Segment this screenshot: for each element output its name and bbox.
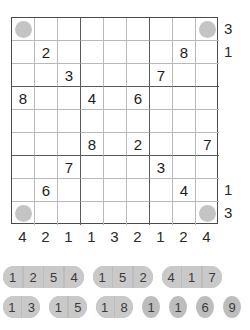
grid-cell-r8c9[interactable] xyxy=(196,179,219,202)
grid-cell-r5c7[interactable] xyxy=(150,110,173,133)
grid-cell-r9c5[interactable] xyxy=(104,202,127,225)
grid-cell-r7c3[interactable]: 7 xyxy=(58,156,81,179)
grid-cell-r3c9[interactable] xyxy=(196,64,219,87)
pill-r2-5[interactable]: 1 xyxy=(169,296,187,318)
clues-bottom-row: 421132124 xyxy=(11,229,218,244)
grid-cell-r8c4[interactable] xyxy=(81,179,104,202)
grid-cell-r3c4[interactable] xyxy=(81,64,104,87)
grid-cell-r9c7[interactable] xyxy=(150,202,173,225)
pill-digit: 2 xyxy=(134,266,153,288)
grid-cell-r3c5[interactable] xyxy=(104,64,127,87)
pill-r2-7[interactable]: 9 xyxy=(223,296,241,318)
grid-cell-r3c7[interactable]: 7 xyxy=(150,64,173,87)
grid-cell-r8c6[interactable] xyxy=(127,179,150,202)
grid-cell-r8c3[interactable] xyxy=(58,179,81,202)
grid-cell-r3c2[interactable] xyxy=(35,64,58,87)
grid-cell-r1c9[interactable] xyxy=(196,18,219,41)
grid-cell-r6c3[interactable] xyxy=(58,133,81,156)
grid-cell-r9c2[interactable] xyxy=(35,202,58,225)
grid-cell-r2c7[interactable] xyxy=(150,41,173,64)
pill-digit: 6 xyxy=(196,296,214,318)
pill-digit: 4 xyxy=(65,266,84,288)
grid-cell-r1c1[interactable] xyxy=(12,18,35,41)
grid-cell-r9c9[interactable] xyxy=(196,202,219,225)
grid-cell-r2c1[interactable] xyxy=(12,41,35,64)
pill-r2-3[interactable]: 18 xyxy=(96,296,133,318)
grid-cell-r4c5[interactable] xyxy=(104,87,127,110)
grid-cell-r7c9[interactable] xyxy=(196,156,219,179)
grid-cell-r4c4[interactable]: 4 xyxy=(81,87,104,110)
grid-cell-r2c5[interactable] xyxy=(104,41,127,64)
pill-r1-2[interactable]: 152 xyxy=(93,266,153,288)
grid-cell-r4c2[interactable] xyxy=(35,87,58,110)
grid-cell-r5c3[interactable] xyxy=(58,110,81,133)
grid-cell-r6c4[interactable]: 8 xyxy=(81,133,104,156)
grid-cell-r6c8[interactable] xyxy=(173,133,196,156)
grid-cell-r2c8[interactable]: 8 xyxy=(173,41,196,64)
grid-cell-r1c3[interactable] xyxy=(58,18,81,41)
grid-cell-r3c6[interactable] xyxy=(127,64,150,87)
pill-r2-1[interactable]: 13 xyxy=(3,296,40,318)
grid-cell-r5c6[interactable] xyxy=(127,110,150,133)
grid-cell-r7c4[interactable] xyxy=(81,156,104,179)
grid-cell-r1c4[interactable] xyxy=(81,18,104,41)
grid-cell-r3c8[interactable] xyxy=(173,64,196,87)
grid-cell-r1c6[interactable] xyxy=(127,18,150,41)
grid-cell-r9c4[interactable] xyxy=(81,202,104,225)
grid-cell-r6c2[interactable] xyxy=(35,133,58,156)
grid-cell-r9c8[interactable] xyxy=(173,202,196,225)
pill-row-1: 1254152417 xyxy=(0,262,250,292)
grid-cell-r9c1[interactable] xyxy=(12,202,35,225)
pill-r2-4[interactable]: 1 xyxy=(142,296,160,318)
grid-cell-r6c1[interactable] xyxy=(12,133,35,156)
grid-cell-r7c6[interactable] xyxy=(127,156,150,179)
grid-cell-r3c3[interactable]: 3 xyxy=(58,64,81,87)
grid-cell-r9c6[interactable] xyxy=(127,202,150,225)
grid-cell-r7c2[interactable] xyxy=(35,156,58,179)
grid-cell-r7c7[interactable]: 3 xyxy=(150,156,173,179)
grid-cell-r4c3[interactable] xyxy=(58,87,81,110)
grid-cell-r7c8[interactable] xyxy=(173,156,196,179)
grid-cell-r4c1[interactable]: 8 xyxy=(12,87,35,110)
grid-cell-r6c5[interactable] xyxy=(104,133,127,156)
grid-cell-r1c7[interactable] xyxy=(150,18,173,41)
grid-cell-r4c7[interactable] xyxy=(150,87,173,110)
grid-cell-r5c5[interactable] xyxy=(104,110,127,133)
grid-cell-r2c3[interactable] xyxy=(58,41,81,64)
grid-cell-r5c2[interactable] xyxy=(35,110,58,133)
clue-right-bottom-1: 1 xyxy=(224,182,244,197)
grid-cell-r1c8[interactable] xyxy=(173,18,196,41)
grid-cell-r2c6[interactable] xyxy=(127,41,150,64)
grid-cell-r6c9[interactable]: 7 xyxy=(196,133,219,156)
grid-cell-r6c6[interactable]: 2 xyxy=(127,133,150,156)
grid-cell-r8c8[interactable]: 4 xyxy=(173,179,196,202)
grid-cell-r6c7[interactable] xyxy=(150,133,173,156)
pill-digit: 1 xyxy=(182,266,201,288)
pill-r2-2[interactable]: 15 xyxy=(49,296,86,318)
grid-cell-r4c6[interactable]: 6 xyxy=(127,87,150,110)
grid-cell-r7c5[interactable] xyxy=(104,156,127,179)
grid-cell-r2c2[interactable]: 2 xyxy=(35,41,58,64)
grid-cell-r4c9[interactable] xyxy=(196,87,219,110)
grid-cell-r9c3[interactable] xyxy=(58,202,81,225)
grid-cell-r8c5[interactable] xyxy=(104,179,127,202)
grid-cell-r5c1[interactable] xyxy=(12,110,35,133)
grid-cell-r1c5[interactable] xyxy=(104,18,127,41)
grid-cell-r8c1[interactable] xyxy=(12,179,35,202)
pill-r2-6[interactable]: 6 xyxy=(196,296,214,318)
grid-cell-r2c4[interactable] xyxy=(81,41,104,64)
pill-r1-3[interactable]: 417 xyxy=(162,266,222,288)
grid-cell-r2c9[interactable] xyxy=(196,41,219,64)
grid-cell-r8c2[interactable]: 6 xyxy=(35,179,58,202)
clue-bottom-9: 4 xyxy=(195,229,218,244)
grid-cell-r5c9[interactable] xyxy=(196,110,219,133)
pill-r1-1[interactable]: 1254 xyxy=(3,266,84,288)
grid-cell-r8c7[interactable] xyxy=(150,179,173,202)
grid-cell-r7c1[interactable] xyxy=(12,156,35,179)
grid-cell-r5c4[interactable] xyxy=(81,110,104,133)
puzzle-grid[interactable]: 28378468277364 xyxy=(11,17,218,224)
grid-cell-r1c2[interactable] xyxy=(35,18,58,41)
grid-cell-r3c1[interactable] xyxy=(12,64,35,87)
grid-cell-r5c8[interactable] xyxy=(173,110,196,133)
grid-cell-r4c8[interactable] xyxy=(173,87,196,110)
